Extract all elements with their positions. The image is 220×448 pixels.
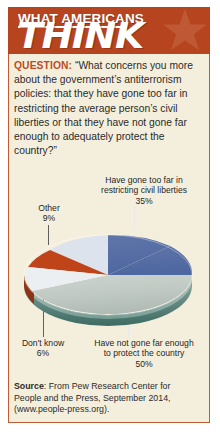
slice-label-dont-know: Don't know 6%	[12, 338, 74, 359]
slice-label-too-far-value: 35%	[83, 196, 205, 206]
infographic-page: WHAT AMERICANS THINK QUESTION: “What con…	[0, 0, 220, 448]
header-banner: WHAT AMERICANS THINK	[8, 7, 210, 54]
question-label: QUESTION:	[14, 60, 72, 71]
star-icon	[162, 8, 208, 52]
source-label: Source	[14, 381, 44, 391]
slice-label-too-far-line1: Have gone too far in	[83, 175, 205, 185]
slice-label-not-far-line2: to protect the country	[82, 348, 206, 358]
slice-label-not-far-line1: Have not gone far enough	[82, 338, 206, 348]
banner-title-main: THINK	[17, 19, 143, 54]
question-block: QUESTION: “What concerns you more about …	[14, 59, 199, 158]
slice-label-other: Other 9%	[24, 203, 74, 224]
slice-label-other-line1: Other	[24, 203, 74, 213]
slice-label-dont-know-line1: Don't know	[12, 338, 74, 348]
slice-label-dont-know-value: 6%	[12, 348, 74, 358]
pie-chart: Have gone too far in restricting civil l…	[10, 175, 208, 370]
slice-label-too-far: Have gone too far in restricting civil l…	[83, 175, 205, 206]
pie-graphic	[20, 223, 196, 331]
slice-label-too-far-line2: restricting civil liberties	[83, 185, 205, 195]
slice-label-not-far: Have not gone far enough to protect the …	[82, 338, 206, 369]
source-note: Source: From Pew Research Center for Peo…	[14, 381, 200, 416]
question-text: “What concerns you more about the govern…	[14, 60, 193, 156]
slice-label-not-far-value: 50%	[82, 359, 206, 369]
